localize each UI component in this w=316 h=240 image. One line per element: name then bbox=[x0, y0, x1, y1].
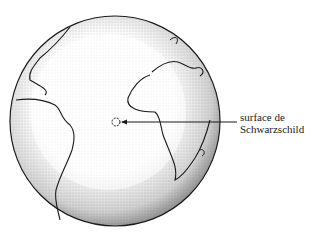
schwarzschild-label: surface de Schwarzschild bbox=[240, 111, 304, 135]
schwarzschild-circle-icon bbox=[112, 118, 120, 126]
label-line-2: Schwarzschild bbox=[240, 123, 304, 135]
label-line-1: surface de bbox=[240, 111, 304, 123]
